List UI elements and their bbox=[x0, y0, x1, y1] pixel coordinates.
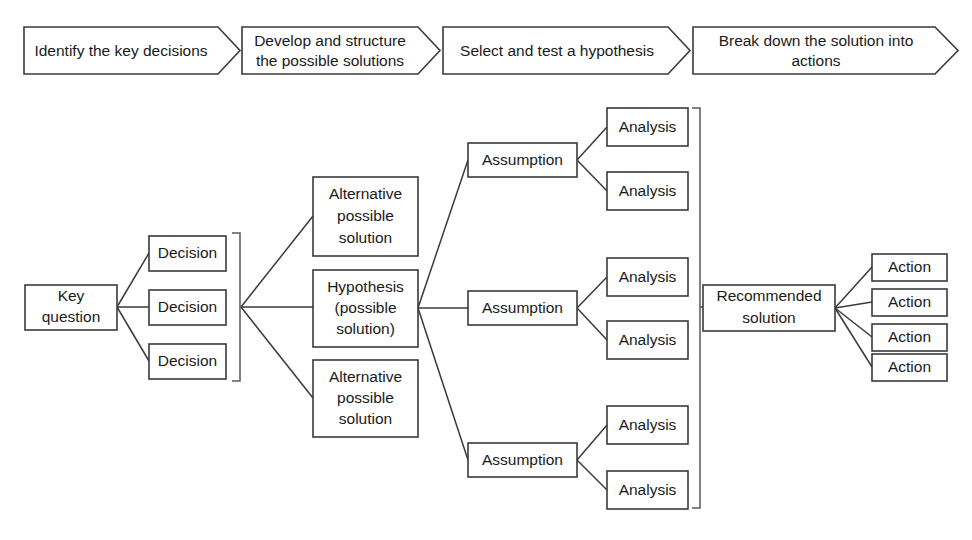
connectors-recommended-to-actions bbox=[835, 267, 872, 367]
node-action-1[interactable]: Action bbox=[872, 254, 947, 281]
node-assumption-2[interactable]: Assumption bbox=[468, 291, 577, 325]
action-2-label: Action bbox=[888, 293, 931, 310]
node-analysis-4[interactable]: Analysis bbox=[607, 321, 688, 359]
hypothesis-label-line2: (possible bbox=[334, 299, 396, 316]
assumption-3-label: Assumption bbox=[482, 451, 563, 468]
node-action-2[interactable]: Action bbox=[872, 289, 947, 316]
analysis-5-label: Analysis bbox=[619, 416, 677, 433]
connectors-assumptions-to-analyses bbox=[577, 127, 607, 490]
node-recommended-solution[interactable]: Recommended solution bbox=[703, 285, 835, 331]
analysis-3-label: Analysis bbox=[619, 268, 677, 285]
node-analysis-3[interactable]: Analysis bbox=[607, 258, 688, 296]
node-decision-2[interactable]: Decision bbox=[149, 290, 226, 325]
analysis-2-label: Analysis bbox=[619, 182, 677, 199]
hypothesis-label-line1: Hypothesis bbox=[327, 278, 404, 295]
key-question-label-line1: Key bbox=[58, 287, 85, 304]
connectors-hypothesis-to-assumptions bbox=[418, 160, 468, 460]
decision-3-label: Decision bbox=[158, 352, 217, 369]
node-assumption-1[interactable]: Assumption bbox=[468, 143, 577, 177]
node-alternative-solution-1[interactable]: Alternative possible solution bbox=[313, 177, 418, 256]
connectors-root-to-decisions bbox=[117, 253, 149, 361]
analysis-4-label: Analysis bbox=[619, 331, 677, 348]
process-step-2[interactable]: Develop and structure the possible solut… bbox=[242, 27, 440, 74]
key-question-label-line2: question bbox=[42, 308, 101, 325]
recommended-solution-label-line2: solution bbox=[742, 309, 795, 326]
process-tree-diagram: Identify the key decisions Develop and s… bbox=[0, 0, 972, 540]
process-step-2-label-line2: the possible solutions bbox=[256, 52, 404, 69]
process-step-1-label-line1: Identify the key decisions bbox=[34, 42, 207, 59]
process-step-2-label-line1: Develop and structure bbox=[254, 32, 406, 49]
node-key-question[interactable]: Key question bbox=[25, 285, 117, 330]
analysis-6-label: Analysis bbox=[619, 481, 677, 498]
alternative-solution-2-label-line3: solution bbox=[339, 410, 392, 427]
process-step-4[interactable]: Break down the solution into actions bbox=[693, 27, 958, 74]
analyses-bracket bbox=[692, 108, 700, 508]
recommended-solution-label-line1: Recommended bbox=[716, 287, 821, 304]
node-action-3[interactable]: Action bbox=[872, 324, 947, 351]
assumption-1-label: Assumption bbox=[482, 151, 563, 168]
action-3-label: Action bbox=[888, 328, 931, 345]
process-step-3[interactable]: Select and test a hypothesis bbox=[443, 27, 690, 74]
process-step-4-label-line2: actions bbox=[791, 52, 840, 69]
analysis-1-label: Analysis bbox=[619, 118, 677, 135]
decisions-bracket bbox=[232, 233, 240, 381]
alternative-solution-2-label-line2: possible bbox=[337, 389, 394, 406]
node-decision-1[interactable]: Decision bbox=[149, 236, 226, 271]
action-4-label: Action bbox=[888, 358, 931, 375]
node-assumption-3[interactable]: Assumption bbox=[468, 443, 577, 477]
assumption-2-label: Assumption bbox=[482, 299, 563, 316]
node-analysis-1[interactable]: Analysis bbox=[607, 108, 688, 146]
node-analysis-6[interactable]: Analysis bbox=[607, 471, 688, 509]
connectors-decisions-to-solutions bbox=[241, 216, 313, 398]
node-analysis-2[interactable]: Analysis bbox=[607, 172, 688, 210]
node-hypothesis[interactable]: Hypothesis (possible solution) bbox=[313, 270, 418, 347]
node-action-4[interactable]: Action bbox=[872, 354, 947, 381]
node-alternative-solution-2[interactable]: Alternative possible solution bbox=[313, 360, 418, 437]
process-step-1[interactable]: Identify the key decisions bbox=[24, 27, 240, 74]
alternative-solution-1-label-line1: Alternative bbox=[329, 185, 402, 202]
diagram-canvas: Identify the key decisions Develop and s… bbox=[0, 0, 972, 540]
decision-2-label: Decision bbox=[158, 298, 217, 315]
process-step-3-label-line1: Select and test a hypothesis bbox=[460, 42, 654, 59]
process-step-4-label-line1: Break down the solution into bbox=[719, 32, 914, 49]
alternative-solution-2-label-line1: Alternative bbox=[329, 368, 402, 385]
alternative-solution-1-label-line2: possible bbox=[337, 207, 394, 224]
node-decision-3[interactable]: Decision bbox=[149, 344, 226, 379]
node-analysis-5[interactable]: Analysis bbox=[607, 406, 688, 444]
action-1-label: Action bbox=[888, 258, 931, 275]
decision-1-label: Decision bbox=[158, 244, 217, 261]
hypothesis-label-line3: solution) bbox=[336, 320, 395, 337]
alternative-solution-1-label-line3: solution bbox=[339, 229, 392, 246]
